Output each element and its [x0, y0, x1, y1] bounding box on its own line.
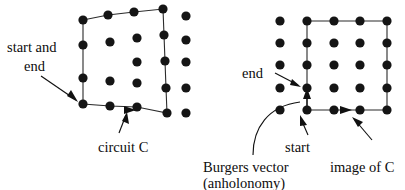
lattice-dot [355, 83, 364, 92]
lattice-dot [78, 40, 87, 49]
circuit-path-left [83, 9, 167, 113]
lattice-dot [78, 99, 87, 108]
lattice-dot [78, 15, 87, 24]
lattice-dot [103, 10, 112, 19]
burgers-vector-label-line2: (anholonomy) [203, 175, 285, 190]
lattice-dot [105, 37, 114, 46]
lattice-dot [355, 38, 364, 47]
lattice-dot [132, 33, 141, 42]
lattice-dot [329, 83, 338, 92]
lattice-dot [382, 38, 391, 47]
start-and-end-leader-left [41, 76, 78, 102]
lattice-dot [162, 108, 171, 117]
circuit-direction-arrow-right [340, 106, 352, 114]
lattice-dot [78, 73, 87, 82]
lattice-dot [302, 16, 311, 25]
lattice-dot [382, 60, 391, 69]
lattice-dot [329, 60, 338, 69]
lattice-dot [181, 11, 190, 20]
lattice-dot [302, 83, 311, 92]
image-of-c-leader [352, 117, 372, 140]
lattice-dot [181, 108, 190, 117]
image-of-c-label: image of C [330, 159, 394, 175]
end-label: end [242, 65, 264, 81]
lattice-dot [275, 83, 284, 92]
lattice-dot [355, 60, 364, 69]
figure-root: start and end circuit C [0, 0, 405, 190]
left-panel: start and end circuit C [7, 4, 191, 155]
start-and-end-label-line1: start and [7, 39, 57, 55]
lattice-dot [105, 76, 114, 85]
lattice-dot [302, 60, 311, 69]
lattice-dots-left [78, 4, 190, 117]
circuit-path-right [307, 21, 387, 110]
lattice-dot [132, 102, 141, 111]
lattice-dot [302, 38, 311, 47]
lattice-dots-right [275, 16, 391, 114]
lattice-dot [159, 30, 168, 39]
lattice-dot [160, 56, 169, 65]
circuit-c-label: circuit C [98, 139, 148, 155]
lattice-dot [132, 78, 141, 87]
start-and-end-label-line2: end [24, 58, 46, 74]
lattice-dot [158, 4, 167, 13]
lattice-dot [302, 105, 311, 114]
lattice-dot [181, 57, 190, 66]
lattice-dot [382, 105, 391, 114]
lattice-dot [181, 83, 190, 92]
lattice-dot [275, 38, 284, 47]
start-leader-right [300, 115, 308, 135]
circuit-c-leader-left [119, 112, 129, 133]
lattice-dot [105, 101, 114, 110]
lattice-dot [329, 105, 338, 114]
lattice-dot [275, 60, 284, 69]
burgers-vector-label-line1: Burgers vector [203, 159, 289, 175]
lattice-dot [129, 7, 138, 16]
lattice-dot [329, 16, 338, 25]
right-panel: end start Burgers vector (anholonomy) im… [203, 16, 394, 190]
lattice-dot [355, 105, 364, 114]
lattice-dot [275, 16, 284, 25]
lattice-dot [132, 57, 141, 66]
lattice-dot [161, 83, 170, 92]
lattice-dot [355, 16, 364, 25]
lattice-dot [329, 38, 338, 47]
lattice-dot [181, 35, 190, 44]
lattice-dot [382, 16, 391, 25]
start-label: start [285, 139, 310, 155]
dislocation-diagram: start and end circuit C [0, 0, 405, 190]
lattice-dot [382, 83, 391, 92]
